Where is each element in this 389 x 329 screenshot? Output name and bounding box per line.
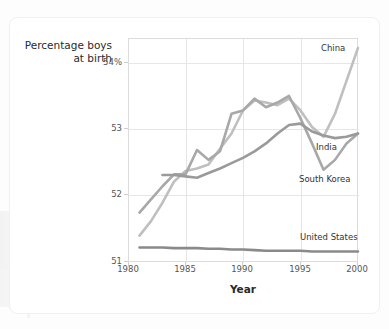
x-tick-label-1980: 1980 [108,264,148,274]
gridline-y-54 [129,63,359,64]
gridline-x-1990 [243,39,244,263]
tickmark-y-54 [124,62,128,63]
y-tick-label-54: 54% [82,57,122,67]
series-label-china: China [321,43,345,53]
gridline-x-1985 [186,39,187,263]
y-tick-label-53: 53 [82,123,122,133]
x-tick-label-1995: 1995 [280,264,320,274]
x-tick-label-1985: 1985 [165,264,205,274]
tickmark-y-52 [124,194,128,195]
y-axis-title-line1: Percentage boys [16,39,112,52]
gridline-y-53 [129,129,359,130]
series-label-south-korea: South Korea [299,174,351,184]
y-tick-label-52: 52 [82,189,122,199]
series-label-united-states: United States [300,232,358,242]
gridline-y-52 [129,195,359,196]
x-tick-label-1990: 1990 [222,264,262,274]
gridline-x-1995 [301,39,302,263]
chart-figure: Percentage boys at birth 54% 53 52 51 19… [0,0,389,329]
tickmark-y-53 [124,128,128,129]
x-tick-label-2000: 2000 [337,264,377,274]
x-axis-title: Year [128,283,358,295]
series-label-india: India [316,142,337,152]
